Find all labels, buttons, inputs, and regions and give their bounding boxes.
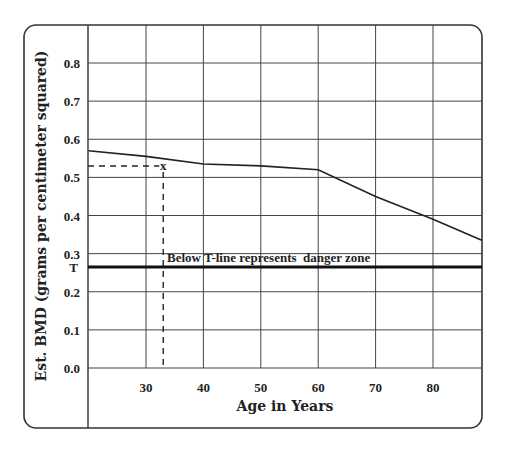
danger-zone-annotation: Below T-line represents danger zone (167, 250, 371, 265)
y-tick-label: 0.0 (64, 361, 80, 376)
marker-x-icon: x (160, 158, 167, 173)
bmd-line (89, 151, 482, 241)
y-axis-title: Est. BMD (grams per centimeter squared) (33, 51, 49, 382)
t-label: T (69, 260, 78, 275)
x-axis-title: Age in Years (236, 398, 334, 414)
x-tick-label: 60 (312, 380, 325, 395)
y-tick-label: 0.7 (64, 94, 81, 109)
y-tick-label: 0.8 (64, 56, 81, 71)
grid (88, 25, 482, 428)
x-tick-label: 40 (197, 380, 210, 395)
x-tick-label: 50 (254, 380, 267, 395)
x-tick-label: 30 (140, 380, 153, 395)
y-tick-labels: 0.00.10.20.30.40.50.60.70.8 (64, 56, 81, 376)
bmd-chart: 0.00.10.20.30.40.50.60.70.8 304050607080… (0, 0, 509, 454)
y-tick-label: 0.2 (64, 285, 80, 300)
x-tick-label: 80 (427, 380, 440, 395)
y-tick-label: 0.4 (64, 209, 81, 224)
y-tick-label: 0.1 (64, 323, 80, 338)
y-tick-label: 0.5 (64, 170, 81, 185)
x-tick-labels: 304050607080 (140, 380, 440, 395)
y-tick-label: 0.6 (64, 132, 81, 147)
x-tick-label: 70 (369, 380, 382, 395)
